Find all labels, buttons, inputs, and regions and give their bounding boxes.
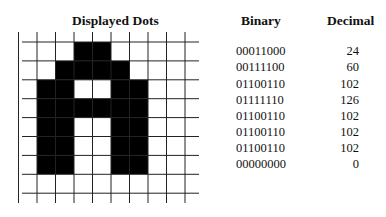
dot-on (130, 137, 149, 156)
dot-off (37, 174, 56, 193)
dot-off (19, 99, 38, 118)
decimal-value: 102 (300, 140, 359, 156)
dot-on (56, 99, 75, 118)
decimal-heading: Decimal (327, 13, 374, 29)
dot-off (148, 80, 167, 99)
dot-off (93, 118, 112, 137)
dot-on (56, 118, 75, 137)
dot-off (111, 174, 130, 193)
dot-on (130, 155, 149, 174)
decimal-value: 126 (300, 92, 359, 108)
dot-off (37, 42, 56, 61)
dot-off (74, 80, 93, 99)
dot-on (93, 61, 112, 80)
dot-on (111, 61, 130, 80)
dot-off (148, 42, 167, 61)
dot-on (130, 118, 149, 137)
dot-off (130, 42, 149, 61)
dot-on (56, 80, 75, 99)
dot-off (148, 174, 167, 193)
dot-on (130, 80, 149, 99)
dot-off (74, 174, 93, 193)
dot-on (93, 42, 112, 61)
dot-on (37, 155, 56, 174)
dot-on (111, 80, 130, 99)
dot-on (37, 137, 56, 156)
dot-on (37, 118, 56, 137)
dot-off (93, 155, 112, 174)
dot-on (74, 99, 93, 118)
decimal-value: 60 (300, 59, 359, 75)
dot-off (148, 99, 167, 118)
dot-on (111, 155, 130, 174)
decimal-value: 102 (300, 76, 359, 92)
dot-on (37, 99, 56, 118)
dot-off (56, 174, 75, 193)
dot-off (19, 155, 38, 174)
dot-on (130, 99, 149, 118)
binary-value: 01100110 (236, 76, 285, 92)
dot-off (19, 118, 38, 137)
dot-off (148, 137, 167, 156)
dot-on (37, 80, 56, 99)
dot-off (93, 80, 112, 99)
dot-off (74, 137, 93, 156)
dot-off (37, 61, 56, 80)
dot-off (19, 137, 38, 156)
binary-value: 01100110 (236, 140, 285, 156)
dot-off (19, 80, 38, 99)
dot-off (93, 137, 112, 156)
binary-value: 01111110 (236, 92, 284, 108)
decimal-value: 24 (300, 43, 359, 59)
dot-off (19, 174, 38, 193)
decimal-value: 102 (300, 108, 359, 124)
dot-on (111, 137, 130, 156)
binary-value: 01100110 (236, 124, 285, 140)
dot-on (56, 155, 75, 174)
binary-value: 00111100 (236, 59, 285, 75)
dot-off (74, 118, 93, 137)
dot-on (93, 99, 112, 118)
dot-off (111, 42, 130, 61)
dot-off (148, 118, 167, 137)
dot-on (74, 61, 93, 80)
dot-off (19, 42, 38, 61)
binary-value: 00011000 (236, 43, 286, 59)
dot-on (111, 99, 130, 118)
dot-on (56, 61, 75, 80)
binary-value: 01100110 (236, 108, 285, 124)
dot-matrix-grid (0, 0, 220, 217)
dot-on (111, 118, 130, 137)
dot-off (148, 155, 167, 174)
dot-off (130, 61, 149, 80)
dot-off (19, 61, 38, 80)
dot-off (130, 174, 149, 193)
binary-heading: Binary (241, 13, 281, 29)
decimal-value: 102 (300, 124, 359, 140)
dot-off (93, 174, 112, 193)
dot-on (74, 42, 93, 61)
dot-off (148, 61, 167, 80)
decimal-value: 0 (300, 156, 359, 172)
dot-off (74, 155, 93, 174)
binary-value: 00000000 (236, 156, 286, 172)
dot-on (56, 137, 75, 156)
dot-off (56, 42, 75, 61)
